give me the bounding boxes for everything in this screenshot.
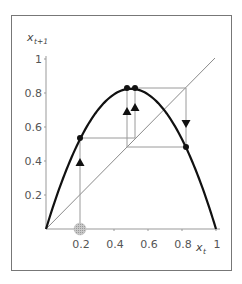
x-tick-label: 0.8	[174, 238, 192, 251]
y-axis-label: x	[26, 31, 34, 44]
data-point	[77, 135, 83, 141]
arrow-up-icon	[123, 107, 132, 115]
x-tick-label: 0.4	[106, 238, 124, 251]
x-tick-label: 1	[214, 238, 221, 251]
y-axis-label-subscript: t+1	[34, 37, 48, 46]
y-tick-label: 0.6	[25, 121, 43, 134]
x-axis-label: x	[195, 241, 203, 254]
diagonal-line	[46, 58, 215, 229]
arrow-down-icon	[182, 120, 191, 128]
y-tick-label: 0.2	[25, 189, 43, 202]
data-point	[183, 144, 189, 150]
arrow-up-icon	[76, 158, 85, 166]
cobweb-chart: 0.2 0.4 0.6 0.8 1 0.2 0.4 0.6 0.8 1 x t+…	[0, 0, 242, 284]
y-tick-label: 0.4	[25, 155, 43, 168]
data-point	[124, 85, 130, 91]
y-tick-label: 0.8	[25, 87, 43, 100]
logistic-curve	[46, 89, 216, 229]
x-axis-label-subscript: t	[203, 247, 207, 256]
x-tick-label: 0.6	[140, 238, 158, 251]
data-point	[132, 85, 138, 91]
direction-arrows	[76, 103, 191, 166]
x-tick-label: 0.2	[72, 238, 90, 251]
chart-frame	[12, 16, 232, 271]
y-tick-label: 1	[35, 53, 42, 66]
start-marker	[74, 223, 86, 235]
arrow-up-icon	[131, 103, 140, 111]
